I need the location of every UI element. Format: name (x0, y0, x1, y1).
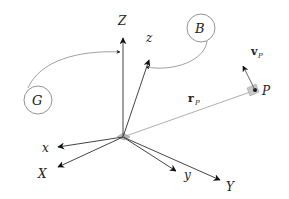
g-frame-connector (28, 52, 120, 88)
svg-text:P: P (194, 99, 200, 107)
label-x: x (42, 141, 49, 155)
label-Y: Y (226, 180, 235, 194)
svg-text:v: v (250, 45, 258, 58)
label-Z: Z (117, 14, 127, 28)
svg-text:G: G (32, 93, 42, 108)
svg-text:P: P (257, 52, 263, 60)
label-z: z (145, 31, 153, 45)
label-X: X (37, 167, 47, 181)
kinematics-diagram: G B Z X Y z x y P r P v P (0, 0, 289, 199)
label-vP: v P (250, 45, 263, 60)
diagram-canvas: G B Z X Y z x y P r P v P (0, 0, 289, 199)
b-frame-connector (146, 41, 207, 68)
velocity-vector-vP (243, 66, 255, 90)
axis-z (123, 60, 149, 137)
svg-text:B: B (194, 21, 205, 36)
axis-y (123, 137, 176, 171)
svg-text:r: r (188, 92, 194, 105)
label-rP: r P (188, 92, 200, 107)
axis-Y (123, 137, 220, 180)
g-frame-circle: G (24, 86, 52, 114)
label-y: y (183, 168, 191, 182)
label-P: P (261, 84, 271, 98)
b-frame-circle: B (187, 14, 215, 42)
